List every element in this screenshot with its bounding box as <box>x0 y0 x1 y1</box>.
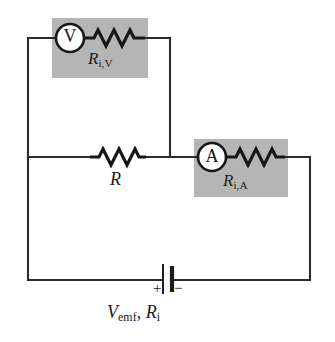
circuit-svg <box>0 0 335 342</box>
voltmeter-resistance-label-sub: i,V <box>98 57 112 69</box>
battery-label-v-main: V <box>107 302 118 322</box>
resistor-label: R <box>110 170 121 188</box>
battery-label: Vemf, Ri <box>107 303 160 324</box>
battery-plus-sign: + <box>153 281 161 296</box>
voltmeter-resistance-label-main: R <box>88 49 98 68</box>
wire-bottom-left <box>28 157 163 280</box>
battery-label-v-sub: emf <box>118 310 137 324</box>
ammeter-symbol-letter: A <box>199 147 225 165</box>
battery-label-r-main: R <box>146 302 157 322</box>
voltmeter-resistance-label: Ri,V <box>88 50 113 69</box>
battery-label-r-sub: i <box>157 310 160 324</box>
ammeter-resistance-label-sub: i,A <box>233 179 247 191</box>
ammeter-resistance-label-main: R <box>223 171 233 190</box>
voltmeter-symbol-letter: V <box>57 27 83 45</box>
circuit-diagram: V A Ri,V Ri,A R Vemf, Ri + − <box>0 0 335 342</box>
battery-label-separator: , <box>137 302 146 322</box>
ammeter-resistance-label: Ri,A <box>223 172 248 191</box>
battery-minus-sign: − <box>174 281 182 296</box>
resistor-symbol <box>90 149 146 165</box>
